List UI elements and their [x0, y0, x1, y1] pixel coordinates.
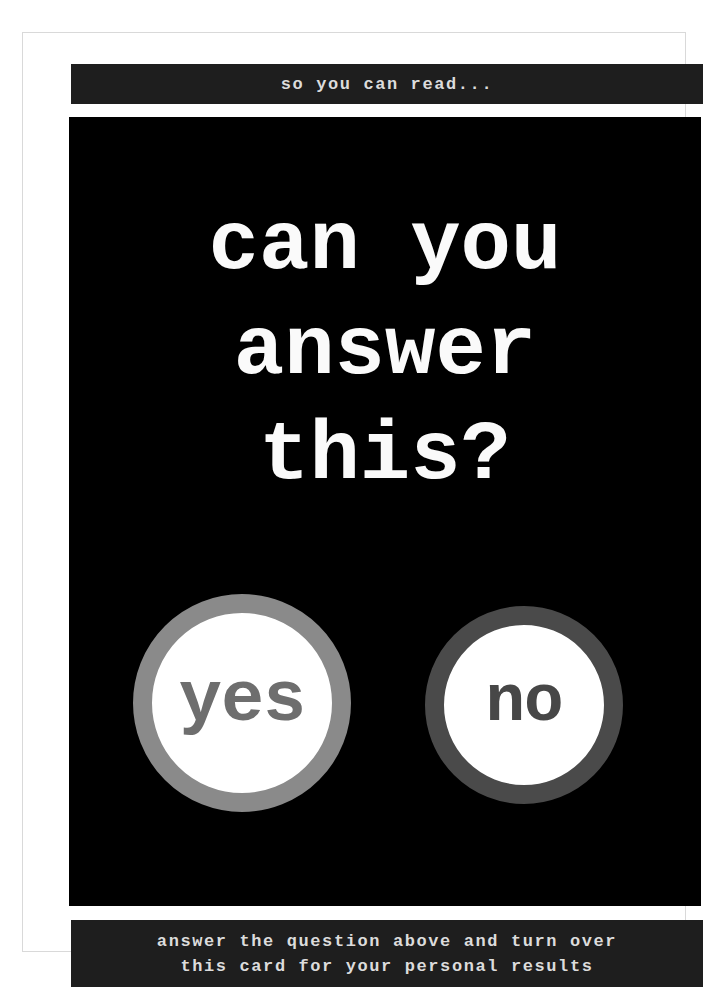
- answer-no-button[interactable]: no: [425, 606, 623, 804]
- card-page: so you can read... can you answer this? …: [0, 0, 711, 1003]
- bottom-banner: answer the question above and turn over …: [71, 920, 703, 987]
- answer-no-label: no: [485, 670, 562, 736]
- answer-yes-label: yes: [179, 665, 306, 737]
- top-banner: so you can read...: [71, 64, 703, 104]
- top-banner-text: so you can read...: [281, 75, 493, 94]
- bottom-banner-line-2: this card for your personal results: [180, 954, 593, 979]
- bottom-banner-line-1: answer the question above and turn over: [157, 929, 617, 954]
- answer-yes-button[interactable]: yes: [133, 594, 351, 812]
- card-body: can you answer this? yes no: [69, 117, 701, 906]
- answer-options: yes no: [69, 117, 701, 906]
- card-frame: so you can read... can you answer this? …: [22, 32, 686, 952]
